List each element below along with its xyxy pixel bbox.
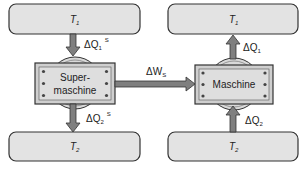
label-work: ΔWS <box>146 66 166 78</box>
label-q2: ΔQ2 <box>245 115 263 127</box>
reservoir-top-left: T1 <box>9 4 140 34</box>
supermachine: Super- maschine <box>35 57 115 109</box>
reservoir-bottom-right: T2 <box>168 132 298 161</box>
arrow-work-right <box>115 77 195 91</box>
machine: Maschine <box>195 58 273 110</box>
label-q2s: ΔQ2S <box>86 111 111 125</box>
arrow-q1-up <box>226 35 240 59</box>
machine-label: Maschine <box>213 79 256 90</box>
arrow-q1s-down <box>66 34 80 56</box>
label-q1: ΔQ1 <box>243 42 261 54</box>
reservoir-bottom-left: T2 <box>9 132 140 161</box>
supermachine-label-line1: Super- <box>60 72 90 83</box>
label-q1s: ΔQ1S <box>84 37 109 51</box>
reservoir-top-right: T1 <box>168 4 298 34</box>
supermachine-label-line2: maschine <box>54 85 97 96</box>
